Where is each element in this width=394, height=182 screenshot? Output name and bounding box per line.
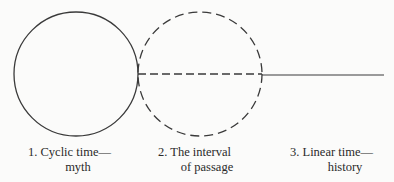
label-cyclic-line1: 1. Cyclic time— (28, 145, 124, 160)
label-linear-line1: 3. Linear time— (290, 145, 386, 160)
label-interval-line1: 2. The interval (158, 145, 248, 160)
label-cyclic-time: 1. Cyclic time— myth (28, 145, 124, 175)
label-cyclic-line2: myth (28, 160, 124, 175)
label-interval-line2: of passage (158, 160, 248, 175)
label-interval-of-passage: 2. The interval of passage (158, 145, 248, 175)
label-linear-time: 3. Linear time— history (290, 145, 386, 175)
cyclic-time-circle (14, 12, 138, 136)
label-linear-line2: history (290, 160, 386, 175)
